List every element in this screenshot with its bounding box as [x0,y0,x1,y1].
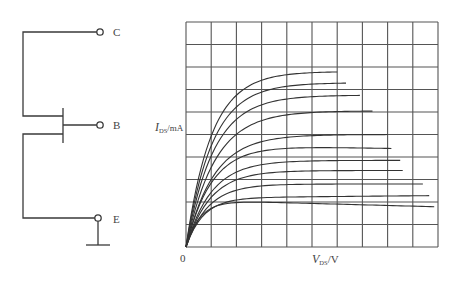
figure: C B E 0 IDS/mA VDS/V [0,0,458,283]
base-label: B [113,119,120,131]
x-axis-unit: /V [328,253,339,265]
collector-label: C [113,26,120,38]
emitter-label: E [113,213,120,225]
characteristic-curve-8 [186,171,403,247]
base-terminal [97,122,103,128]
y-axis-label: IDS/mA [154,120,184,134]
emitter-wire [23,134,95,218]
collector-wire [23,32,97,116]
chart-grid [186,22,438,247]
transistor-circuit: C B E [23,26,120,245]
characteristic-curve-2 [186,83,346,247]
origin-label: 0 [180,252,186,264]
characteristic-curves [186,72,434,247]
collector-terminal [97,29,103,35]
x-axis-label: VDS/V [312,252,339,266]
y-axis-unit: /mA [167,123,184,133]
emitter-terminal [95,215,101,221]
